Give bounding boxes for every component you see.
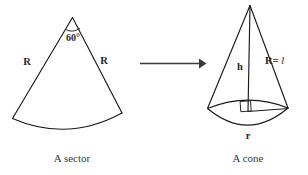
cone-slant-label: R= l: [265, 56, 284, 67]
diagram-canvas: 60° R R A sector h R= l r A cone: [0, 0, 308, 175]
geometry-figure-svg: [0, 0, 308, 175]
cone-radius-label: r: [246, 131, 251, 142]
cone-slant-variable: l: [281, 55, 284, 66]
sector-arc: [13, 113, 123, 129]
cone-slant-left-line: [208, 6, 251, 109]
sector-radius-left-label: R: [23, 57, 31, 68]
cone-radius-line: [248, 109, 288, 112]
sector-radius-right-label: R: [100, 56, 108, 67]
cone-height-label: h: [237, 62, 243, 73]
sector-caption: A sector: [54, 153, 90, 164]
cone-slant-prefix: R=: [265, 55, 279, 66]
cone-height-line: [248, 6, 250, 112]
sector-radius-left-line: [13, 18, 73, 119]
sector-angle-arc: [66, 29, 80, 32]
sector-angle-label: 60°: [66, 33, 80, 43]
cone-caption: A cone: [233, 153, 264, 164]
transformation-arrow: [140, 59, 207, 69]
arrow-head: [199, 59, 207, 69]
right-angle-marker-icon: [241, 101, 252, 112]
